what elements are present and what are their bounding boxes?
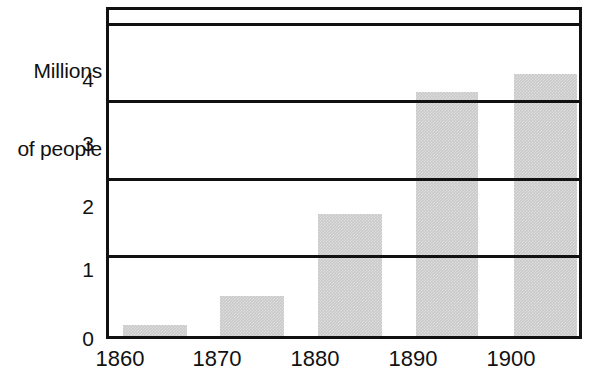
y-tick-label-1: 1 [64, 259, 94, 280]
bar-1900 [514, 74, 577, 336]
bar-chart: Millions of people 0 1 2 3 4 1860 1870 1… [0, 0, 589, 383]
gridline-1 [109, 255, 579, 258]
bar-1880 [318, 214, 382, 336]
gridline-3 [109, 100, 579, 103]
gridline-4 [109, 23, 579, 26]
bar-1870 [220, 296, 284, 336]
bar-1890 [416, 92, 478, 337]
gridline-2 [109, 178, 579, 181]
x-tick-label-1880: 1880 [270, 347, 360, 371]
y-tick-label-2: 2 [64, 196, 94, 217]
x-tick-label-1870: 1870 [172, 347, 262, 371]
bar-1860 [123, 325, 187, 336]
y-tick-label-4: 4 [64, 69, 94, 90]
x-tick-label-1890: 1890 [368, 347, 458, 371]
plot-inner [109, 10, 579, 336]
y-tick-label-0: 0 [64, 328, 94, 349]
y-axis-title: Millions of people [2, 6, 102, 214]
y-tick-label-3: 3 [64, 133, 94, 154]
plot-area [106, 7, 582, 339]
x-tick-label-1900: 1900 [466, 347, 556, 371]
x-tick-label-1860: 1860 [75, 347, 165, 371]
